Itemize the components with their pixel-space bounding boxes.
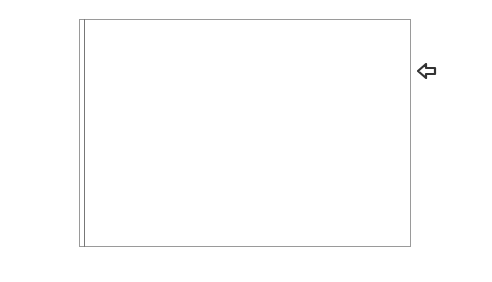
left-arrow-icon [417, 63, 437, 79]
bar-series [0, 0, 492, 282]
